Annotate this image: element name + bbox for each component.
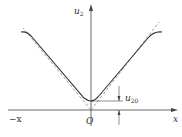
asymptote-left (23, 28, 91, 110)
marker-label: u20 (125, 94, 138, 104)
origin-label: O (86, 117, 93, 126)
y-axis-label-sub: 2 (80, 10, 84, 17)
x-axis-label: x (173, 115, 178, 124)
neg-x-axis-label: −x (9, 115, 22, 124)
u20-down-arrow-icon (118, 96, 121, 101)
u20-up-arrow-icon (118, 110, 121, 115)
diagram-figure: u2 u20 −x O x (0, 0, 182, 137)
x-axis-arrow-icon (171, 108, 178, 112)
marker-label-sub: 20 (131, 97, 139, 104)
solution-curve (21, 32, 162, 101)
y-axis-label: u2 (74, 7, 84, 17)
y-axis-arrow-icon (89, 4, 93, 11)
